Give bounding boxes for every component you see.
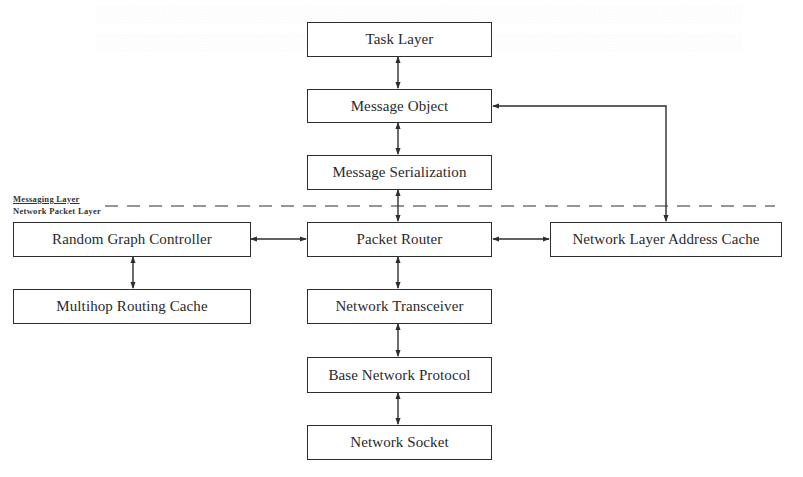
node-label: Multihop Routing Cache (56, 298, 207, 315)
node-base-network-protocol: Base Network Protocol (307, 357, 492, 393)
node-label: Network Transceiver (335, 298, 463, 315)
arrow-address-cache-to-message-object (493, 106, 666, 221)
node-label: Message Serialization (332, 164, 466, 181)
node-label: Packet Router (357, 231, 443, 248)
node-label: Network Layer Address Cache (572, 231, 759, 248)
node-label: Network Socket (350, 434, 448, 451)
node-label: Base Network Protocol (328, 367, 470, 384)
network-packet-layer-label: Network Packet Layer (13, 206, 101, 216)
node-label: Message Object (351, 98, 449, 115)
node-network-transceiver: Network Transceiver (307, 289, 492, 324)
node-label: Random Graph Controller (52, 231, 212, 248)
node-message-serialization: Message Serialization (307, 155, 492, 190)
node-message-object: Message Object (307, 89, 492, 123)
node-network-layer-address-cache: Network Layer Address Cache (550, 222, 782, 257)
node-network-socket: Network Socket (307, 425, 492, 460)
node-multihop-routing-cache: Multihop Routing Cache (13, 289, 251, 324)
node-label: Task Layer (366, 31, 434, 48)
node-packet-router: Packet Router (307, 222, 492, 257)
node-task-layer: Task Layer (307, 22, 492, 57)
messaging-layer-label: Messaging Layer (13, 194, 80, 204)
node-random-graph-controller: Random Graph Controller (13, 222, 251, 257)
